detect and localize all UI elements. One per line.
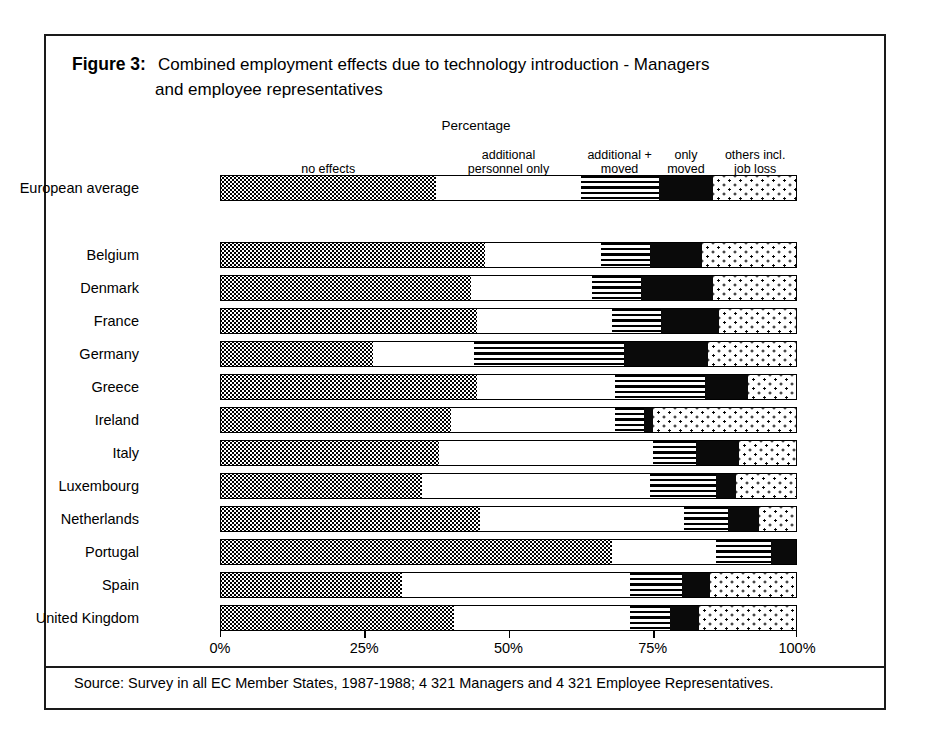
bar-row: Belgium bbox=[46, 242, 884, 268]
bar-segment bbox=[480, 506, 685, 532]
bar-segment bbox=[454, 605, 630, 631]
bar-row-label: Germany bbox=[0, 341, 139, 367]
bar-segment bbox=[699, 605, 797, 631]
bar-segment bbox=[684, 506, 727, 532]
x-axis bbox=[220, 630, 797, 637]
legend-label-line-2: job loss bbox=[713, 162, 797, 176]
stacked-bar bbox=[220, 242, 797, 268]
bar-row-label: Belgium bbox=[0, 242, 139, 268]
legend-item: additionalpersonnel only bbox=[454, 148, 564, 176]
legend-item: no effects bbox=[253, 162, 403, 176]
stacked-bar bbox=[220, 308, 797, 334]
chart-plot-area: no effectsadditionalpersonnel onlyadditi… bbox=[46, 36, 884, 708]
bar-segment bbox=[771, 539, 797, 565]
bar-row: Denmark bbox=[46, 275, 884, 301]
bar-segment bbox=[220, 341, 373, 367]
bar-segment bbox=[581, 175, 659, 201]
legend-label-line-1: others incl. bbox=[713, 148, 797, 162]
stacked-bar bbox=[220, 374, 797, 400]
stacked-bar bbox=[220, 605, 797, 631]
bar-segment bbox=[705, 374, 748, 400]
bar-row: Portugal bbox=[46, 539, 884, 565]
bar-row: Italy bbox=[46, 440, 884, 466]
bar-segment bbox=[650, 242, 702, 268]
bar-row-label: Denmark bbox=[0, 275, 139, 301]
axis-tick-label: 0% bbox=[210, 640, 231, 656]
bar-segment bbox=[736, 473, 797, 499]
bar-segment bbox=[220, 605, 454, 631]
bar-row-label: Luxembourg bbox=[0, 473, 139, 499]
bar-segment bbox=[708, 341, 797, 367]
bar-segment bbox=[220, 175, 436, 201]
legend-label-line-2: moved bbox=[655, 162, 717, 176]
stacked-bar bbox=[220, 175, 797, 201]
bar-segment bbox=[748, 374, 797, 400]
bar-segment bbox=[713, 275, 797, 301]
bar-segment bbox=[630, 605, 670, 631]
bar-segment bbox=[696, 440, 739, 466]
bar-segment bbox=[373, 341, 474, 367]
bar-segment bbox=[220, 572, 402, 598]
bar-segment bbox=[713, 175, 797, 201]
legend-label-line-1: additional + bbox=[578, 148, 662, 162]
bar-segment bbox=[220, 374, 477, 400]
bar-segment bbox=[220, 275, 471, 301]
bar-segment bbox=[612, 308, 661, 334]
legend-label-line-1: only bbox=[655, 148, 717, 162]
bar-segment bbox=[220, 440, 439, 466]
bar-segment bbox=[402, 572, 630, 598]
bar-row: Netherlands bbox=[46, 506, 884, 532]
stacked-bar bbox=[220, 506, 797, 532]
bar-segment bbox=[477, 308, 613, 334]
bar-row: Luxembourg bbox=[46, 473, 884, 499]
bar-row-label: Portugal bbox=[0, 539, 139, 565]
legend-item: additional +moved bbox=[578, 148, 662, 176]
stacked-bar bbox=[220, 539, 797, 565]
bar-segment bbox=[659, 175, 714, 201]
bar-segment bbox=[653, 440, 696, 466]
bar-segment bbox=[624, 341, 708, 367]
legend-label-line-1: additional bbox=[454, 148, 564, 162]
legend-item: others incl.job loss bbox=[713, 148, 797, 176]
legend-label-line-2: moved bbox=[578, 162, 662, 176]
axis-tick-label: 75% bbox=[638, 640, 667, 656]
axis-tick bbox=[509, 631, 511, 638]
bar-segment bbox=[436, 175, 580, 201]
bar-segment bbox=[716, 473, 736, 499]
bar-row-label: European average bbox=[0, 175, 139, 201]
bar-segment bbox=[220, 506, 480, 532]
legend-label-line-1: no effects bbox=[253, 162, 403, 176]
axis-tick-label: 50% bbox=[494, 640, 523, 656]
bar-segment bbox=[702, 242, 797, 268]
bar-segment bbox=[592, 275, 641, 301]
bar-segment bbox=[650, 473, 716, 499]
bar-row-label: Greece bbox=[0, 374, 139, 400]
bar-segment bbox=[630, 572, 682, 598]
bar-segment bbox=[485, 242, 600, 268]
bar-segment bbox=[682, 572, 711, 598]
axis-tick-label: 25% bbox=[350, 640, 379, 656]
stacked-bar bbox=[220, 407, 797, 433]
axis-tick-label: 100% bbox=[778, 640, 815, 656]
bar-segment bbox=[716, 539, 771, 565]
bar-row: Greece bbox=[46, 374, 884, 400]
bar-segment bbox=[661, 308, 719, 334]
bar-segment bbox=[220, 539, 612, 565]
bar-segment bbox=[601, 242, 650, 268]
bar-segment bbox=[220, 242, 485, 268]
bar-segment bbox=[644, 407, 653, 433]
bar-segment bbox=[422, 473, 650, 499]
bar-segment bbox=[670, 605, 699, 631]
stacked-bar bbox=[220, 275, 797, 301]
stacked-bar bbox=[220, 440, 797, 466]
legend-label-line-2: personnel only bbox=[454, 162, 564, 176]
bar-segment bbox=[728, 506, 760, 532]
bar-row-label: Spain bbox=[0, 572, 139, 598]
bar-segment bbox=[739, 440, 797, 466]
bar-row: Spain bbox=[46, 572, 884, 598]
bar-row-label: Ireland bbox=[0, 407, 139, 433]
bar-segment bbox=[220, 407, 451, 433]
bar-row-label: United Kingdom bbox=[0, 605, 139, 631]
stacked-bar bbox=[220, 572, 797, 598]
source-divider bbox=[46, 666, 884, 668]
